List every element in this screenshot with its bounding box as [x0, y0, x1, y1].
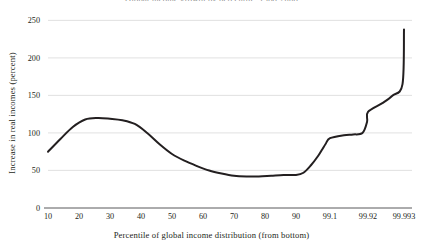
- x-tick-60: 60: [199, 212, 207, 221]
- y-tick-50: 50: [32, 166, 40, 175]
- y-tick-250: 250: [28, 16, 40, 25]
- x-axis-title: Percentile of global income distribution…: [0, 230, 423, 240]
- x-tick-10: 10: [44, 212, 52, 221]
- x-tick-40: 40: [137, 212, 145, 221]
- income-growth-curve: [48, 29, 404, 176]
- x-tick-30: 30: [106, 212, 114, 221]
- y-tick-100: 100: [28, 129, 40, 138]
- gridlines: [48, 20, 412, 170]
- x-tick-20: 20: [75, 212, 83, 221]
- chart-plot-area: 250 200 150 100 50 0 10 20 30 40 50 60 7…: [0, 0, 423, 246]
- y-tick-150: 150: [28, 91, 40, 100]
- chart-figure: Global income growth by percentile, 1988…: [0, 0, 423, 246]
- x-tick-99-993: 99.993: [393, 212, 416, 221]
- y-axis-title: Increase in real incomes (percent): [7, 28, 17, 198]
- x-tick-50: 50: [168, 212, 176, 221]
- x-tick-70: 70: [230, 212, 238, 221]
- y-tick-0: 0: [36, 204, 40, 213]
- x-tick-99-1: 99.1: [323, 212, 337, 221]
- x-tick-90: 90: [292, 212, 300, 221]
- x-tick-80: 80: [261, 212, 269, 221]
- y-tick-labels: 250 200 150 100 50 0: [28, 16, 40, 213]
- x-tick-labels: 10 20 30 40 50 60 70 80 90 99.1 99.92 99…: [44, 212, 415, 221]
- y-tick-200: 200: [28, 54, 40, 63]
- x-tick-99-92: 99.92: [359, 212, 377, 221]
